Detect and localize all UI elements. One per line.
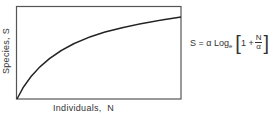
y-axis-label: Species, S bbox=[1, 21, 11, 81]
fraction-denominator: α bbox=[256, 43, 261, 51]
log-curve bbox=[17, 17, 181, 99]
species-accumulation-plot bbox=[0, 0, 270, 116]
formula-bracket-close: ] bbox=[263, 35, 269, 51]
formula-inner-term: 1 + bbox=[241, 38, 254, 48]
formula-log-base: e bbox=[229, 43, 232, 49]
fisher-log-series-formula: S = α Log e [ 1 + N α ] bbox=[190, 34, 269, 51]
formula-fraction: N α bbox=[255, 34, 263, 51]
x-axis-label: Individuals, N bbox=[53, 103, 114, 113]
formula-lhs: S = α Log bbox=[190, 38, 229, 48]
